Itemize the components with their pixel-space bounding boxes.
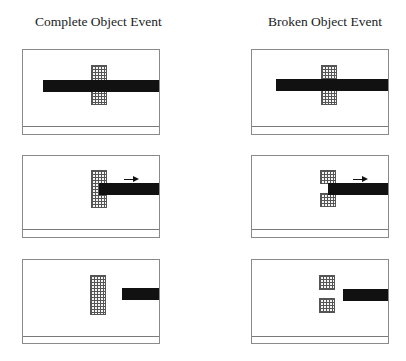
rod-broken-1: [276, 79, 388, 91]
rod-broken-3: [343, 289, 388, 301]
occluder-broken-3-top: [319, 275, 335, 290]
ground-line: [252, 229, 388, 230]
motion-right-arrow-icon: [353, 179, 366, 180]
ground-line: [23, 126, 159, 127]
ground-line: [23, 336, 159, 337]
ground-line: [252, 126, 388, 127]
ground-line: [23, 229, 159, 230]
rod-complete-1: [43, 80, 159, 92]
occluder-broken-2-bottom: [320, 193, 336, 207]
column-title-broken: Broken Object Event: [268, 14, 382, 30]
rod-complete-3: [122, 288, 159, 300]
occluder-complete-3: [90, 275, 106, 315]
panel-broken-stage-1: [251, 49, 389, 135]
ground-line: [252, 336, 388, 337]
occluder-broken-3-bottom: [319, 298, 335, 313]
motion-right-arrow-icon: [124, 179, 137, 180]
column-title-complete: Complete Object Event: [35, 14, 162, 30]
rod-complete-2: [99, 183, 159, 195]
rod-broken-2: [328, 183, 388, 195]
occluder-broken-2-top: [320, 170, 336, 184]
